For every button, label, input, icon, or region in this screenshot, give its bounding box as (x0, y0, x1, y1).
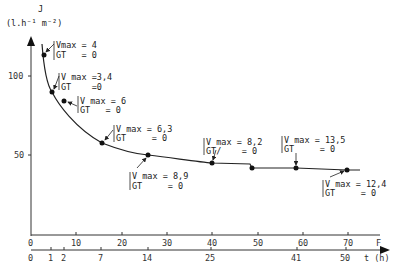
y-axis-title: J (38, 4, 43, 14)
t-tick: 2 (61, 253, 66, 263)
svg-text:V max =3,4: V max =3,4 (61, 72, 112, 82)
y-axis-arrow-icon (27, 36, 35, 46)
F-tick: 10 (71, 238, 81, 248)
y-axis: J (l.h⁻¹ m⁻²) 100 50 (6, 4, 62, 236)
flux-chart: J (l.h⁻¹ m⁻²) 100 50 0 10 20 30 40 50 60… (0, 0, 396, 270)
annotations (46, 41, 344, 197)
t-tick: 41 (291, 253, 301, 263)
svg-text:GT/ = 0: GT/ = 0 (206, 146, 257, 156)
svg-text:GT = 0: GT = 0 (132, 181, 183, 191)
svg-text:GT = 0: GT = 0 (284, 144, 335, 154)
F-tick: 30 (162, 238, 172, 248)
F-tick: 20 (117, 238, 127, 248)
svg-text:GT = 0: GT = 0 (56, 50, 97, 60)
svg-text:GT = 0: GT = 0 (116, 133, 167, 143)
t-tick: 1 (48, 253, 53, 263)
t-tick: 0 (28, 253, 33, 263)
svg-text:V max = 8,9: V max = 8,9 (132, 171, 188, 181)
y-axis-unit: (l.h⁻¹ m⁻²) (6, 18, 62, 28)
F-tick: 70 (343, 238, 353, 248)
x-axis-F: 0 10 20 30 40 50 60 70 F (28, 232, 381, 248)
t-axis-label: t (h) (364, 253, 390, 263)
t-tick: 7 (98, 253, 103, 263)
F-tick: 0 (28, 238, 33, 248)
F-tick: 50 (253, 238, 263, 248)
t-tick: 25 (205, 253, 215, 263)
t-tick: 14 (142, 253, 152, 263)
F-tick: 40 (207, 238, 217, 248)
t-tick: 50 (340, 253, 350, 263)
F-tick: 60 (298, 238, 308, 248)
y-tick-50: 50 (14, 150, 24, 160)
svg-text:Vmax = 4: Vmax = 4 (56, 40, 97, 50)
svg-text:GT = 0: GT = 0 (80, 105, 121, 115)
svg-text:GT = 0: GT = 0 (325, 188, 376, 198)
x-axis-t: 0 1 2 7 14 25 41 50 t (h) (28, 246, 390, 263)
svg-text:GT =0: GT =0 (61, 82, 102, 92)
y-tick-100: 100 (8, 71, 23, 81)
